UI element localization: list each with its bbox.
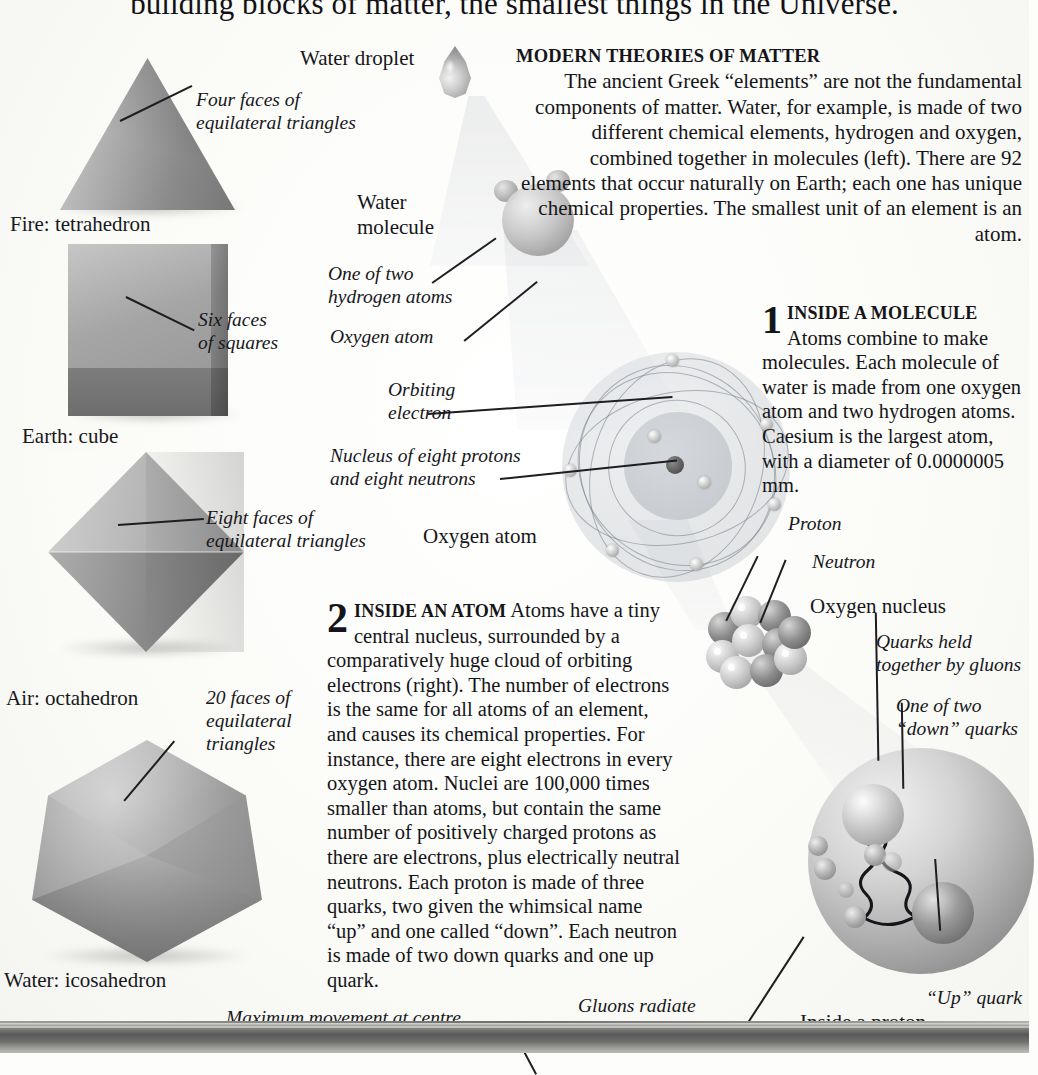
label-proton: Proton — [788, 512, 841, 535]
label-water-molecule: Water molecule — [357, 190, 434, 240]
icosahedron-callout: 20 faces of equilateral triangles — [206, 686, 336, 755]
label-down-quarks: One of two “down” quarks — [896, 694, 1038, 740]
modern-theories-block: MODERN THEORIES OF MATTER The ancient Gr… — [516, 44, 1022, 247]
solid-label-fire: Fire: tetrahedron — [10, 212, 151, 237]
solid-label-air: Air: octahedron — [6, 686, 138, 711]
gluon-strings-svg — [808, 748, 1034, 974]
inside-a-molecule-block: 1 INSIDE A MOLECULE Atoms combine to mak… — [762, 300, 1028, 498]
solid-label-water: Water: icosahedron — [4, 968, 166, 993]
label-orbiting-electron: Orbiting electron — [388, 378, 558, 424]
tetrahedron-callout: Four faces of equilateral triangles — [196, 88, 406, 134]
octahedron-figure — [48, 452, 244, 652]
inside-a-molecule-heading: INSIDE A MOLECULE — [787, 303, 977, 323]
inside-an-atom-heading: INSIDE AN ATOM — [354, 601, 506, 621]
water-droplet-figure — [436, 46, 474, 98]
down-quark-sphere — [842, 784, 904, 846]
label-neutron: Neutron — [812, 550, 875, 573]
label-nucleus-eight: Nucleus of eight protons and eight neutr… — [330, 444, 590, 490]
page-title: building blocks of matter, the smallest … — [0, 0, 1029, 22]
up-quark-sphere — [912, 882, 974, 944]
inside-a-molecule-body: Atoms combine to make molecules. Each mo… — [762, 327, 1021, 497]
label-oxygen-nucleus: Oxygen nucleus — [810, 594, 946, 619]
inside-an-atom-block: 2 INSIDE AN ATOM Atoms have a tiny centr… — [327, 598, 683, 993]
step-number-1: 1 — [762, 303, 782, 337]
octahedron-callout: Eight faces of equilateral triangles — [206, 506, 422, 552]
tetrahedron-figure — [60, 58, 235, 210]
proton-figure — [808, 748, 1034, 974]
step-number-2: 2 — [327, 601, 348, 636]
label-oxygen-atom-italic: Oxygen atom — [330, 325, 520, 348]
modern-theories-heading: MODERN THEORIES OF MATTER — [516, 44, 1022, 69]
label-hydrogen-atoms: One of two hydrogen atoms — [328, 262, 518, 308]
modern-theories-body: The ancient Greek “elements” are not the… — [516, 69, 1022, 247]
label-up-quark: “Up” quark — [926, 986, 1022, 1009]
oxygen-nucleus-figure — [706, 594, 818, 698]
page-bottom-bar — [0, 1023, 1029, 1053]
label-water-droplet: Water droplet — [300, 46, 414, 71]
label-oxygen-atom-caption: Oxygen atom — [423, 524, 537, 549]
inside-an-atom-body: Atoms have a tiny central nucleus, surro… — [327, 599, 680, 991]
solid-label-earth: Earth: cube — [22, 424, 118, 449]
label-quarks-gluons: Quarks held together by gluons — [876, 630, 1038, 676]
